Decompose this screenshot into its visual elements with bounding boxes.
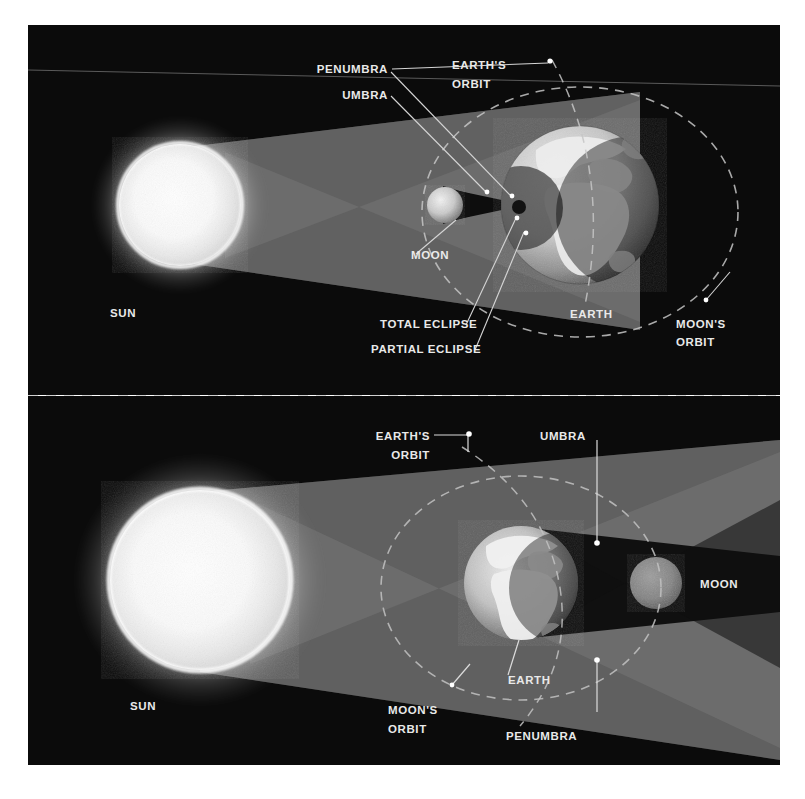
eclipse-diagram: PENUMBRA UMBRA EARTH'S ORBIT MOON SUN EA… (0, 0, 805, 799)
diagram-stage: PENUMBRA UMBRA EARTH'S ORBIT MOON SUN EA… (0, 0, 805, 799)
